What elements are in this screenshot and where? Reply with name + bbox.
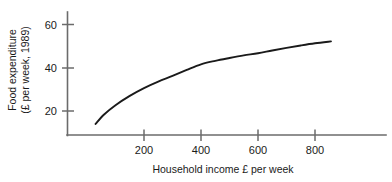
y-axis-title-line1: Food expenditure (6, 29, 18, 111)
x-tick-label-800: 800 (306, 144, 324, 156)
x-tick-label-600: 600 (249, 144, 267, 156)
y-axis-title-line2: (£ per week, 1989) (19, 26, 31, 114)
x-tick-label-200: 200 (135, 144, 153, 156)
y-axis-title-group: Food expenditure (£ per week, 1989) (6, 26, 31, 114)
data-curve-food-expenditure (96, 41, 331, 124)
x-tick-label-400: 400 (192, 144, 210, 156)
y-tick-label-40: 40 (45, 62, 57, 74)
y-tick-label-60: 60 (45, 19, 57, 31)
x-axis-tick-labels: 200 400 600 800 (135, 144, 324, 156)
chart-container: 20 40 60 200 400 600 800 Household incom… (0, 0, 392, 182)
chart-plot-svg: 20 40 60 200 400 600 800 Household incom… (0, 0, 392, 182)
x-axis-title: Household income £ per week (152, 163, 294, 175)
y-axis-tick-labels: 20 40 60 (45, 19, 57, 118)
y-tick-label-20: 20 (45, 105, 57, 117)
